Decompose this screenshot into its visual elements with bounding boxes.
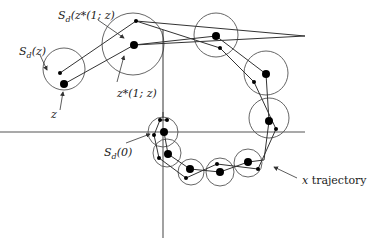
center-point (186, 165, 194, 173)
trajectory-paths (60, 21, 305, 178)
trajectory-point (152, 133, 156, 137)
center-point (265, 117, 273, 125)
trajectory-point (256, 167, 260, 171)
trajectory-point (184, 176, 188, 180)
pointer-arrow (60, 92, 63, 110)
trajectory-point (165, 118, 169, 122)
coordinate-axes (0, 112, 305, 238)
connector-line (136, 21, 305, 36)
label-x-trajectory: x trajectory (302, 175, 367, 186)
label-sd-z: Sd(z) (19, 46, 46, 60)
center-point (216, 168, 224, 176)
sphere-trajectory-diagram (0, 0, 373, 248)
pointer-arrow (126, 134, 150, 143)
center-point (60, 80, 68, 88)
pointer-arrow (274, 167, 297, 178)
label-sd-zero: Sd(0) (104, 147, 132, 161)
label-sd-zstar: Sd(z*(1; z) (58, 10, 115, 24)
label-zstar: z*(1; z) (117, 88, 157, 99)
label-z: z (51, 109, 57, 120)
center-point (160, 128, 168, 136)
trajectory-point (218, 46, 222, 50)
pointer-arrow (117, 56, 124, 82)
trajectory-point (58, 71, 62, 75)
trajectory-point (158, 118, 162, 122)
center-point (244, 158, 252, 166)
center-point (164, 150, 172, 158)
center-point (212, 32, 220, 40)
trajectory-point (252, 80, 256, 84)
center-point (262, 70, 270, 78)
center-point (130, 41, 138, 49)
trajectory-point (215, 162, 219, 166)
trajectory-point (157, 156, 161, 160)
trajectory-point (134, 19, 138, 23)
trajectory-point (274, 127, 278, 131)
